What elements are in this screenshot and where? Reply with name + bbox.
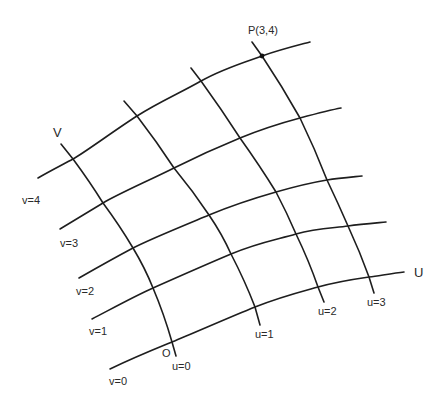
diagram-canvas: P(3,4) V U O v=0 v=1 v=2 v=3 v=4 u=0 u=1… bbox=[0, 0, 437, 404]
v-curve-3 bbox=[60, 108, 341, 229]
origin-label: O bbox=[162, 347, 171, 359]
v-curve-label-4: v=4 bbox=[22, 194, 40, 206]
u-axis-label: U bbox=[414, 265, 423, 280]
u-curve-label-2: u=2 bbox=[318, 305, 337, 317]
v-curve-label-0: v=0 bbox=[109, 375, 127, 387]
v-curve-4 bbox=[38, 42, 310, 178]
point-p-marker bbox=[260, 54, 265, 59]
u-curve-label-0: u=0 bbox=[172, 360, 191, 372]
u-curve-label-3: u=3 bbox=[367, 296, 386, 308]
v-curve-0 bbox=[110, 272, 404, 369]
curvilinear-grid: P(3,4) V U O v=0 v=1 v=2 v=3 v=4 u=0 u=1… bbox=[0, 0, 437, 404]
u-curve-label-1: u=1 bbox=[255, 328, 274, 340]
u-curve-3 bbox=[252, 42, 374, 293]
v-curve-label-2: v=2 bbox=[76, 285, 94, 297]
v-curve-label-3: v=3 bbox=[60, 237, 78, 249]
v-curve-label-1: v=1 bbox=[89, 325, 107, 337]
v-axis-label: V bbox=[53, 125, 62, 140]
v-curve-2 bbox=[79, 176, 362, 278]
point-p-label: P(3,4) bbox=[248, 24, 278, 36]
v-curves bbox=[38, 42, 404, 369]
